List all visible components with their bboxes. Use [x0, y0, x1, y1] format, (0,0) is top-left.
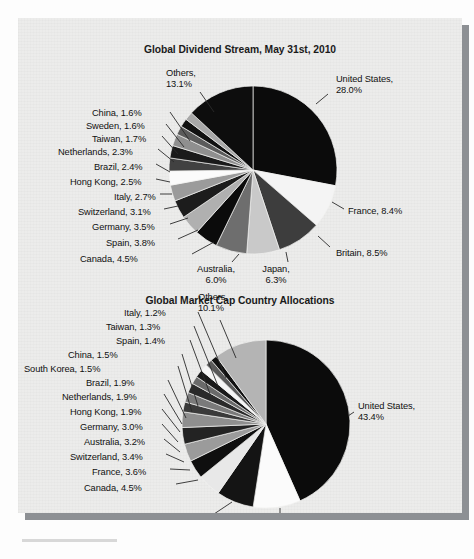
label-leader-line [286, 252, 288, 262]
label-leader-line [162, 409, 180, 432]
pie-slice-label-line1: Netherlands, 1.9% [62, 392, 137, 403]
pie-slice-label-line1: Hong Kong, 1.9% [70, 407, 141, 418]
label-leader-line [176, 480, 198, 484]
pie-slice-label-line1: France, 8.4% [348, 206, 402, 217]
pie-slice [253, 86, 337, 186]
scan-footer-bar [22, 539, 117, 542]
pie-slice-label-line1: Italy, 1.2% [124, 308, 166, 319]
pie-slice-label-line1: China, 1.6% [92, 108, 142, 119]
pie-slice-label-line1: Switzerland, 3.4% [70, 452, 143, 463]
pie-slice-label-line1: Others, [198, 292, 228, 303]
pie-slice-label-line2: 28.0% [336, 85, 393, 96]
pie-slice-label: Others,13.1% [166, 68, 196, 91]
pie-slice-label: Switzerland, 3.1% [78, 207, 151, 218]
pie-slice-label-line1: France, 3.6% [92, 467, 146, 478]
pie-slice-label: France, 8.4% [348, 206, 402, 217]
label-leader-line [178, 230, 198, 239]
pie-slice-label: Taiwan, 1.7% [92, 134, 146, 145]
dividend-stream-chart: Global Dividend Stream, May 31st, 2010 U… [18, 26, 462, 288]
pie-slice-label-line2: 43.4% [358, 412, 415, 423]
pie-slice-label-line1: Netherlands, 2.3% [58, 147, 133, 158]
pie-slice-label: Italy, 2.7% [114, 192, 156, 203]
pie-slice-label-line1: Brazil, 2.4% [94, 162, 142, 173]
label-leader-line [318, 236, 330, 247]
pie-slice-label: Britain, 8.5% [336, 248, 387, 259]
pie-slice-label-line1: Brazil, 1.9% [86, 378, 134, 389]
pie-slice-label-line1: Italy, 2.7% [114, 192, 156, 203]
label-leader-line [192, 242, 214, 254]
label-leader-line [332, 202, 344, 209]
pie-slice-label: South Korea, 1.5% [24, 364, 100, 375]
label-leader-line [168, 380, 186, 418]
pie-slice-label: Brazil, 2.4% [94, 162, 142, 173]
label-leader-line [232, 254, 239, 262]
scanned-page-root: Global Dividend Stream, May 31st, 2010 U… [0, 0, 474, 559]
label-leader-line [170, 469, 190, 470]
pie-slice-label-line1: Canada, 4.5% [80, 254, 138, 265]
pie-slice-label: Canada, 4.5% [84, 483, 142, 494]
pie-slice-label-line2: 13.1% [166, 79, 196, 90]
pie-slice-label: Switzerland, 3.4% [70, 452, 143, 463]
pie-slice-label: Canada, 4.5% [80, 254, 138, 265]
pie-slice-label: Hong Kong, 1.9% [70, 407, 141, 418]
pie-slice-label-line1: China, 1.5% [68, 350, 118, 361]
pie-slice-label-line1: Spain, 1.4% [116, 336, 165, 347]
article-page-panel: Global Dividend Stream, May 31st, 2010 U… [18, 18, 462, 513]
pie-slice-label: Netherlands, 1.9% [62, 392, 137, 403]
label-leader-line [164, 394, 182, 424]
pie-slice-label-line1: Taiwan, 1.3% [106, 322, 160, 333]
pie-slice-label-line1: Switzerland, 3.1% [78, 207, 151, 218]
pie-slice-label-line1: Hong Kong, 2.5% [70, 177, 141, 188]
pie-slice-label-line2: 10.1% [198, 303, 228, 314]
pie-slice-label-line1: Germany, 3.5% [92, 222, 155, 233]
label-leader-line [156, 164, 170, 172]
pie-slice-label-line1: Australia, [176, 264, 256, 275]
pie-slice-label-line1: United States, [336, 74, 393, 85]
pie-slice-label: Sweden, 1.6% [86, 121, 145, 132]
pie-slice-label: Spain, 1.4% [116, 336, 165, 347]
pie-slice-label: United States,28.0% [336, 74, 393, 97]
pie-slice-label: Hong Kong, 2.5% [70, 177, 141, 188]
pie-slice-label: Italy, 1.2% [124, 308, 166, 319]
label-leader-line [156, 179, 170, 182]
pie-slice-label: France, 3.6% [92, 467, 146, 478]
pie-slice-label-line1: Others, [166, 68, 196, 79]
pie-slice-label-line1: Australia, 3.2% [84, 437, 145, 448]
label-leader-line [166, 454, 184, 462]
pie-slice-label: Germany, 3.0% [80, 422, 143, 433]
pie-slice-label-line1: Britain, 8.5% [336, 248, 387, 259]
label-leader-line [316, 94, 328, 104]
label-leader-line [164, 206, 178, 209]
market-cap-chart: Global Market Cap Country Allocations Un… [18, 276, 462, 513]
pie-slice-label: Spain, 3.8% [106, 238, 155, 249]
pie-slice-label: Brazil, 1.9% [86, 378, 134, 389]
pie-slice-label: Others,10.1% [198, 292, 228, 315]
pie-slice-label: Taiwan, 1.3% [106, 322, 160, 333]
pie-slice-label-line1: Canada, 4.5% [84, 483, 142, 494]
label-leader-line [170, 218, 188, 224]
pie-slice-label: Netherlands, 2.3% [58, 147, 133, 158]
pie-slice-label-line1: Germany, 3.0% [80, 422, 143, 433]
pie-slice-label-line1: Sweden, 1.6% [86, 121, 145, 132]
pie-slice-label-line1: Spain, 3.8% [106, 238, 155, 249]
pie-slice-label-line1: South Korea, 1.5% [24, 364, 100, 375]
label-leader-line [214, 502, 232, 513]
pie-slice-label: Australia, 3.2% [84, 437, 145, 448]
pie-slice-label: Germany, 3.5% [92, 222, 155, 233]
pie-slice-label: United States,43.4% [358, 401, 415, 424]
pie-slice-label: China, 1.6% [92, 108, 142, 119]
pie-slice-label: China, 1.5% [68, 350, 118, 361]
pie-slice-label-line1: Taiwan, 1.7% [92, 134, 146, 145]
pie-slice-label-line1: United States, [358, 401, 415, 412]
